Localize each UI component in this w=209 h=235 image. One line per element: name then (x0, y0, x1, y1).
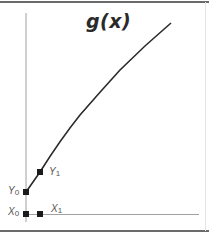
x0-marker (23, 211, 29, 217)
label-y1: Y1 (49, 166, 60, 178)
label-y0: Y0 (8, 185, 19, 197)
y1-marker (37, 169, 43, 175)
g-curve (26, 23, 171, 192)
label-x0: X0 (8, 206, 19, 218)
function-title: g(x) (86, 10, 131, 32)
x1-marker (37, 211, 43, 217)
plot-area (0, 0, 209, 235)
label-x1: X1 (51, 203, 62, 215)
y0-marker (23, 189, 29, 195)
